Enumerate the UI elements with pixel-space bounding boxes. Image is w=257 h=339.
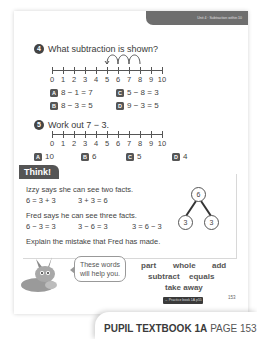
speech-bubble: These words will help you.: [74, 256, 126, 282]
think-box: Think! Izzy says she can see two facts. …: [23, 174, 237, 259]
footer-page-label: PAGE 153: [210, 323, 257, 334]
option-text: 8 − 1 = 7: [61, 88, 93, 97]
tick-label: 1: [58, 139, 68, 148]
question-number-badge: 4: [34, 44, 44, 54]
option-b[interactable]: B6: [81, 152, 96, 161]
tick-label: 10: [157, 139, 167, 148]
option-letter-badge: C: [126, 153, 134, 161]
number-line-q5: 0 1 2 3 4 5 6 7 8 9 10: [52, 129, 162, 149]
option-a[interactable]: A8 − 1 = 7: [50, 88, 93, 97]
option-text: 5: [137, 152, 141, 161]
option-letter-badge: B: [81, 153, 89, 161]
fred-statement: Fred says he can see three facts.: [26, 211, 137, 220]
tick-label: 1: [58, 75, 68, 84]
textbook-title: PUPIL TEXTBOOK 1A: [104, 323, 207, 334]
option-text: 9 − 3 = 5: [127, 101, 159, 110]
option-text: 10: [45, 152, 54, 161]
word-part: part: [141, 261, 156, 270]
option-d[interactable]: D9 − 3 = 5: [116, 101, 159, 110]
option-letter-badge: A: [34, 153, 42, 161]
jump-arrows-icon: [104, 50, 152, 66]
tick-label: 7: [124, 75, 134, 84]
textbook-page: Unit 4 · Subtraction within 10 4What sub…: [14, 11, 248, 314]
page-number: 153: [228, 295, 236, 300]
unit-tab: Unit 4 · Subtraction within 10: [146, 11, 248, 25]
izzy-fact: 6 = 3 + 3: [26, 196, 56, 205]
bubble-text: will help you.: [75, 269, 125, 278]
tick-label: 3: [80, 75, 90, 84]
tick-label: 0: [47, 139, 57, 148]
practice-book-link[interactable]: → Practice book 1A p55: [163, 297, 203, 304]
cat-mascot-icon: [18, 253, 68, 293]
tick-label: 5: [102, 139, 112, 148]
think-heading: Think!: [19, 165, 59, 179]
tick-label: 4: [91, 75, 101, 84]
option-text: 6: [92, 152, 96, 161]
tick-label: 3: [80, 139, 90, 148]
bubble-text: These words: [75, 260, 125, 269]
option-letter-badge: A: [50, 89, 58, 97]
fred-fact: 3 − 6 = 3: [78, 222, 108, 231]
footer-caption: PUPIL TEXTBOOK 1APAGE 153: [95, 312, 257, 339]
question-number-badge: 5: [34, 120, 44, 130]
tick-label: 8: [135, 75, 145, 84]
izzy-statement: Izzy says she can see two facts.: [26, 185, 133, 194]
option-c[interactable]: C5: [126, 152, 141, 161]
tick-label: 9: [146, 139, 156, 148]
word-equals: equals: [189, 272, 214, 281]
option-c[interactable]: C5 − 8 = 3: [116, 88, 159, 97]
option-text: 8 − 3 = 5: [61, 101, 93, 110]
word-take-away: take away: [165, 283, 203, 292]
fred-fact: 3 = 6 − 3: [132, 222, 162, 231]
option-letter-badge: D: [116, 102, 124, 110]
izzy-fact: 3 + 3 = 6: [78, 196, 108, 205]
option-text: 5 − 8 = 3: [127, 88, 159, 97]
tick-label: 10: [157, 75, 167, 84]
option-letter-badge: D: [172, 153, 180, 161]
tick-label: 6: [113, 139, 123, 148]
option-text: 4: [183, 152, 187, 161]
tick-label: 0: [47, 75, 57, 84]
tick-label: 4: [91, 139, 101, 148]
tick-label: 9: [146, 75, 156, 84]
option-letter-badge: C: [116, 89, 124, 97]
whole-circle: 6: [191, 187, 206, 202]
option-letter-badge: B: [50, 102, 58, 110]
tick-label: 7: [124, 139, 134, 148]
word-whole: whole: [173, 261, 196, 270]
word-subtract: subtract: [148, 272, 180, 281]
word-add: add: [212, 261, 226, 270]
option-b[interactable]: B8 − 3 = 5: [50, 101, 93, 110]
fred-fact: 6 − 3 = 3: [26, 222, 56, 231]
tick-label: 6: [113, 75, 123, 84]
option-a[interactable]: A10: [34, 152, 54, 161]
part-circle-right: 3: [204, 215, 219, 230]
tick-label: 2: [69, 75, 79, 84]
tick-label: 2: [69, 139, 79, 148]
part-circle-left: 3: [178, 215, 193, 230]
tick-label: 8: [135, 139, 145, 148]
tick-label: 5: [102, 75, 112, 84]
number-line-q4: 0 1 2 3 4 5 6 7 8 9 10: [52, 65, 162, 85]
part-whole-diagram: 6 3 3: [176, 186, 221, 232]
think-prompt: Explain the mistake that Fred has made.: [26, 237, 160, 246]
option-d[interactable]: D4: [172, 152, 187, 161]
